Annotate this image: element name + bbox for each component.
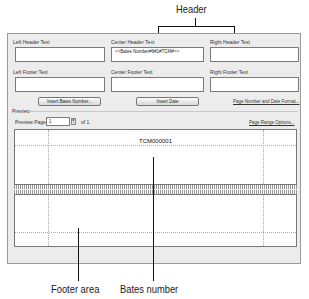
bates-dialog: Left Header Text Center Header Text Righ… [7, 33, 301, 264]
center-footer-input[interactable] [111, 77, 204, 92]
right-header-label: Right Header Text [210, 39, 250, 45]
bates-number-preview-text: TCM000001 [15, 138, 296, 144]
center-header-input[interactable]: <<Bates Number#6#1#TCM#>> [111, 47, 204, 62]
preview-separator [28, 111, 298, 112]
page-break-top [14, 185, 297, 189]
insert-date-button[interactable]: Insert Date [136, 97, 199, 106]
bates-callout-line [153, 157, 154, 281]
page-spinner[interactable]: ⬍ [71, 118, 76, 125]
right-header-input[interactable] [210, 47, 299, 62]
left-header-label: Left Header Text [13, 39, 50, 45]
footer-area-callout-label: Footer area [51, 283, 99, 295]
left-footer-input[interactable] [15, 77, 105, 92]
header-callout-label: Header [176, 3, 207, 15]
header-preview-area: TCM000001 [14, 129, 297, 185]
header-callout-bar [158, 26, 235, 27]
center-footer-label: Center Footer Text [111, 69, 152, 75]
insert-bates-number-button[interactable]: Insert Bates Number... [38, 97, 101, 106]
left-header-input[interactable] [15, 47, 105, 62]
right-footer-input[interactable] [210, 77, 299, 92]
header-callout-stem [195, 18, 196, 26]
right-margin-guide [263, 195, 264, 246]
header-margin-guide [15, 145, 296, 146]
preview-page-label: Preview Page [15, 119, 46, 125]
footer-margin-guide [15, 232, 296, 233]
right-footer-label: Right Footer Text [210, 69, 248, 75]
bates-number-callout-label: Bates number [120, 283, 178, 295]
footer-callout-line [78, 228, 79, 281]
page-count-label: of 1 [81, 119, 89, 125]
preview-page-input[interactable]: 1 [46, 117, 70, 126]
left-footer-label: Left Footer Text [13, 69, 48, 75]
center-header-label: Center Header Text [111, 39, 154, 45]
left-margin-guide [48, 195, 49, 246]
page-range-options-link[interactable]: Page Range Options... [249, 120, 295, 125]
footer-preview-area [14, 194, 297, 247]
page-number-date-format-link[interactable]: Page Number and Date Format... [233, 99, 300, 104]
